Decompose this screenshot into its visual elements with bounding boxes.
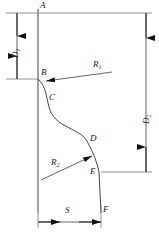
dimension-label-d2-text: D: [141, 118, 151, 125]
leader-line-r1: [46, 72, 112, 81]
profile-outline: [38, 9, 101, 213]
engineering-dimension-diagram: A B C D E F D1 D2 S R1 R2: [0, 0, 159, 235]
point-label-e: E: [90, 167, 96, 176]
extension-lines: [6, 13, 152, 172]
diagram-canvas: [0, 0, 159, 235]
point-label-c: C: [49, 93, 55, 102]
dimension-label-d1-text: D: [10, 52, 20, 59]
dimension-label-s: S: [65, 206, 70, 215]
point-label-b: B: [41, 68, 47, 77]
dimension-label-d2: D2: [142, 115, 151, 125]
radius-label-r1-sub: 1: [99, 64, 102, 70]
leader-line-r2: [41, 156, 92, 180]
point-label-d: D: [90, 134, 97, 143]
segment-bcde: [38, 79, 99, 172]
radius-label-r1-text: R: [93, 59, 99, 69]
radius-label-r1: R1: [93, 60, 102, 69]
point-label-a: A: [40, 1, 46, 10]
radius-label-r2: R2: [51, 158, 60, 167]
radius-label-r2-text: R: [51, 157, 57, 167]
point-label-f: F: [103, 205, 109, 214]
dimension-label-d1: D1: [11, 49, 20, 59]
radius-label-r2-sub: 2: [57, 162, 60, 168]
